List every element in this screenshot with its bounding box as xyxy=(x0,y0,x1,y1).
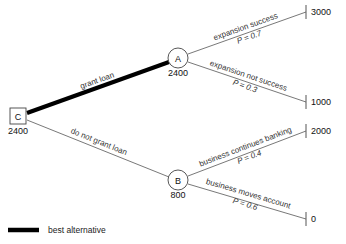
branch-label-group-do-not-grant-loan: do not grant loan xyxy=(69,126,128,157)
branch-label-group-expansion-success: expansion success P = 0.7 xyxy=(212,11,282,53)
node-c-label: C xyxy=(15,112,22,122)
terminal-payoff-0: 0 xyxy=(311,214,316,224)
node-a-value: 2400 xyxy=(168,68,188,78)
node-b-label: B xyxy=(175,176,181,186)
node-c-value: 2400 xyxy=(8,126,28,136)
legend-label-best-alternative: best alternative xyxy=(48,225,106,235)
terminal-payoff-3000: 3000 xyxy=(311,7,331,17)
terminal-payoff-1000: 1000 xyxy=(311,97,331,107)
branch-label-group-expansion-not-success: expansion not success P = 0.3 xyxy=(205,59,288,104)
node-a-label: A xyxy=(175,54,181,64)
branch-label-do-not-grant-loan: do not grant loan xyxy=(69,126,128,157)
decision-tree-diagram: 3000 1000 2000 0 C 2400 A 2400 B 800 gra… xyxy=(0,0,346,244)
node-b-value: 800 xyxy=(170,190,185,200)
branch-label-group-business-continues-banking: business continues banking P = 0.4 xyxy=(198,125,297,179)
branch-line-do-not-grant-loan xyxy=(27,120,169,177)
terminal-payoff-2000: 2000 xyxy=(311,126,331,136)
branch-line-grant-loan xyxy=(27,62,169,113)
decision-tree-canvas: 3000 1000 2000 0 C 2400 A 2400 B 800 gra… xyxy=(0,0,346,244)
branch-label-group-business-moves-account: business moves account P = 0.6 xyxy=(202,177,292,221)
